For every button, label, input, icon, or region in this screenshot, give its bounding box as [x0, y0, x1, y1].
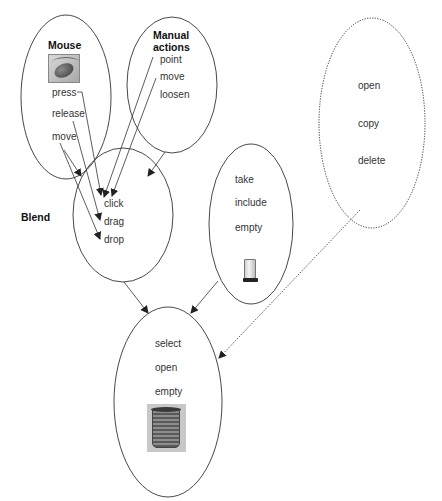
mouse-item-press: press: [52, 87, 76, 99]
edge-blend-result: [124, 282, 148, 313]
blend-item-drop: drop: [104, 234, 124, 246]
mouse-icon: [48, 54, 80, 83]
glass-container-icon: [243, 259, 257, 283]
blend-label: Blend: [21, 211, 50, 223]
result-item-empty: empty: [155, 386, 182, 398]
result-ellipse: [114, 307, 222, 497]
blend-item-click: click: [104, 198, 123, 210]
manual-item-point: point: [160, 54, 182, 66]
result-item-open: open: [155, 362, 177, 374]
manual-title-line1: Manual: [153, 29, 189, 41]
manual-title-line2: actions: [153, 41, 190, 53]
edge-point-click: [104, 57, 153, 197]
edge-manual-blend: [148, 152, 165, 176]
mouse-item-move: move: [52, 131, 76, 143]
blend-item-drag: drag: [104, 216, 124, 228]
mouse-item-release: release: [52, 108, 85, 120]
container-item-empty: empty: [235, 222, 262, 234]
computer-item-copy: copy: [358, 118, 379, 130]
trash-bin-icon: [147, 404, 186, 452]
edge-container-result: [191, 281, 218, 313]
result-item-select: select: [155, 338, 181, 350]
container-item-include: include: [235, 197, 267, 209]
computer-item-open: open: [358, 80, 380, 92]
computer-item-delete: delete: [358, 155, 385, 167]
manual-item-move: move: [160, 71, 184, 83]
blend-ellipse: [73, 148, 173, 282]
container-item-take: take: [235, 174, 254, 186]
manual-item-loosen: loosen: [160, 89, 189, 101]
edge-manualmove-click: [112, 78, 156, 196]
mouse-title: Mouse: [48, 39, 81, 51]
